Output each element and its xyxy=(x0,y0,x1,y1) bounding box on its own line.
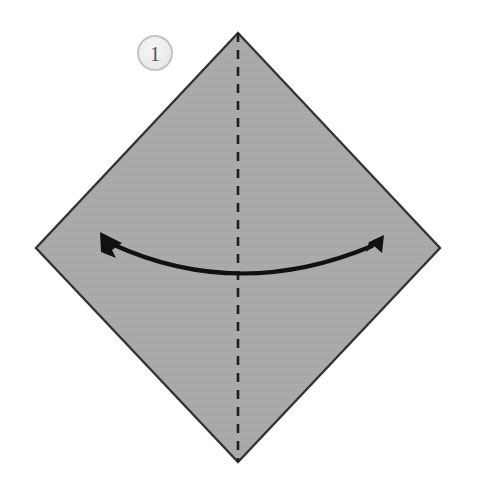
figure-canvas: 1 xyxy=(0,0,478,493)
step-badge: 1 xyxy=(138,36,172,70)
step-badge-label: 1 xyxy=(150,42,161,66)
origami-diagram: 1 xyxy=(0,0,478,493)
